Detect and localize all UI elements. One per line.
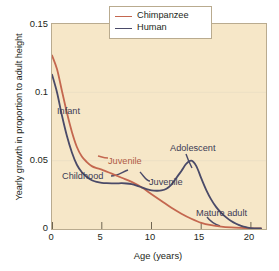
legend-swatch-human: [115, 28, 132, 29]
legend-label-chimpanzee: Chimpanzee: [137, 11, 189, 20]
annotation-juvenile-chimp: Juvenile: [108, 157, 142, 166]
legend-item-chimpanzee: Chimpanzee: [115, 10, 206, 22]
annotation-infant: Infant: [57, 107, 80, 116]
series-line-chimpanzee: [52, 55, 261, 228]
x-tick-label-10: 10: [138, 232, 162, 241]
legend-label-human: Human: [137, 23, 167, 32]
growth-curve-figure: Yearly growth in proportion to adult hei…: [0, 0, 279, 271]
annotation-childhood: Childhood: [62, 172, 103, 181]
x-tick-label-0: 0: [39, 232, 63, 241]
annotation-adolescent: Adolescent: [170, 144, 215, 153]
gridlines: [52, 92, 266, 160]
x-tick-label-15: 15: [187, 232, 211, 241]
legend: Chimpanzee Human: [109, 6, 212, 39]
annotation-juvenile-human: Juvenile: [149, 178, 183, 187]
legend-swatch-chimpanzee: [115, 16, 132, 17]
annotation-mature-adult: Mature adult: [196, 209, 247, 218]
x-tick-label-20: 20: [237, 232, 261, 241]
plot-svg: [52, 24, 266, 229]
x-axis-title: Age (years): [51, 250, 265, 261]
plot-area: [51, 23, 267, 230]
x-tick-label-5: 5: [88, 232, 112, 241]
series-line-human: [52, 75, 261, 229]
x-axis-ticks: [53, 222, 251, 229]
legend-item-human: Human: [115, 22, 206, 34]
